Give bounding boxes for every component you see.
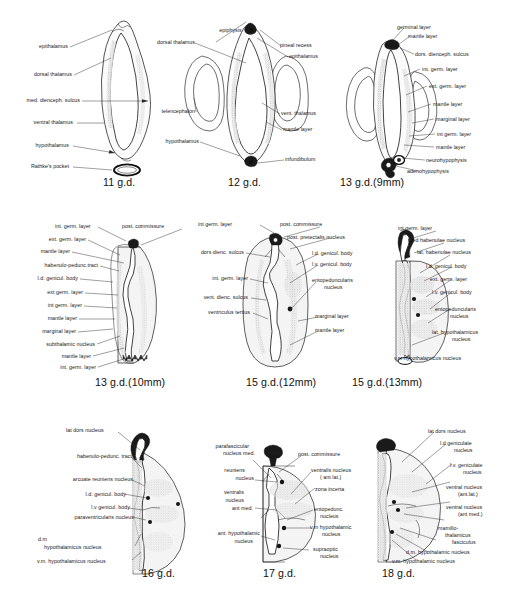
label-vm-hypothalamic-nucleus: v.m. hypothalamic nucleus	[392, 558, 455, 564]
label-arcuate-reuniens-nucleus: arcuate reuniens nucleus	[0, 476, 133, 482]
caption-17gd: 17 g.d.	[263, 568, 296, 579]
label-mantle-layer-2: mantle layer	[433, 101, 462, 107]
label-ventralis-1: ventralis	[165, 489, 244, 495]
label-parafascicular-2: nucleus med.	[165, 450, 255, 456]
label-int-germ-layer-mid: int. germ. layer	[140, 275, 248, 281]
label-paraventricularis-nucleus: paraventricularis nucleus	[0, 514, 134, 520]
label-int-germ-layer-2: int germ. layer	[0, 302, 82, 308]
figure-root: epithalamus dorsal thalamus med. diencep…	[0, 0, 530, 607]
label-infundibulum: infundibulum	[285, 156, 316, 162]
panel-11gd: epithalamus dorsal thalamus med. diencep…	[0, 0, 180, 195]
panel-15gd-12mm: int germ. layer post. commissure post. p…	[160, 205, 360, 395]
label-med-habenulae-nucleus: med habenulae nucleus	[408, 237, 465, 243]
label-int-germ-layer-1: int. germ. layer	[422, 66, 458, 72]
label-mantle-layer-1: mantle layer	[0, 248, 70, 254]
label-mamillo-2: thalamicus	[445, 532, 471, 538]
panel-15gd-13mm: int.germ. layer med habenulae nucleus la…	[340, 205, 530, 395]
label-dm-hypothalamicus-2: hypothalamicus nucleus	[44, 544, 101, 550]
caption-13gd-10mm: 13 g.d.(10mm)	[95, 377, 165, 388]
label-epithalamus: epithalamus	[0, 43, 68, 49]
label-marginal-layer: marginal layer	[0, 328, 76, 334]
label-dm-hypothalamic-nucleus: d.m. hypothalamic nucleus	[406, 549, 470, 555]
caption-12gd: 12 g.d.	[228, 177, 261, 188]
label-lat-habenulae-nucleus: lat. habenulae nucleus	[417, 249, 471, 255]
label-lv-genicul-body: l.v. genicul. body	[432, 289, 472, 295]
label-post-commissure: post. commissure	[280, 221, 322, 227]
panel-15gd-13mm-drawing	[340, 205, 530, 395]
panel-18gd: lat dors nucleus l.d geniculate nucleus …	[330, 410, 530, 607]
label-ant-hypothalamic-1: ant. hypothalamic	[165, 530, 260, 536]
label-vm-hypothalamicus: v.m. hypothalamicus nucleus	[37, 558, 106, 564]
label-epithalamus: epithalamus	[289, 53, 318, 59]
label-mantle-layer-1: mantle layer	[408, 33, 437, 39]
label-mantle-layer-3: mantle layer	[0, 353, 91, 359]
label-int-germ-layer-3: int. germ. layer	[0, 364, 96, 370]
label-dm-hypothalamicus-1: d.m	[38, 536, 47, 542]
label-marginal-layer: marginal layer	[436, 116, 470, 122]
label-mantle-layer-3: mantle layer	[436, 144, 465, 150]
label-mamillo-1: mamillo-	[438, 525, 458, 531]
label-ext-germ-layer: ext. germ. layer	[430, 276, 467, 282]
label-ventral-ant-med-2: (ant med.)	[458, 511, 483, 517]
label-lv-geniculate-1: l.v. geniculate	[450, 462, 483, 468]
label-int-germ-layer-top: int. germ. layer	[55, 223, 91, 229]
label-parafascicular-1: parafascicular	[165, 443, 249, 449]
label-lat-hypothalamicus-2: nucleus	[452, 336, 471, 342]
label-mantle-layer-2: mantle layer	[0, 315, 77, 321]
label-reuniens-2: nucleus	[165, 475, 254, 481]
label-dors-dienc-sulcus: dors dienc. sulcus	[140, 249, 244, 255]
label-rathkes-pocket: Rathke's pocket	[0, 163, 69, 169]
label-entopeduncularis-2: nucleus	[450, 313, 469, 319]
label-ventral-ant-lat-1: ventral nucleus	[446, 484, 482, 490]
caption-15gd-12mm: 15 g.d.(12mm)	[246, 377, 316, 388]
label-dorsal-thalamus: dorsal thalamus	[0, 71, 72, 77]
label-lv-geniculate-2: nucleus	[463, 469, 482, 475]
label-ld-geniculate-1: l.d geniculate	[440, 440, 472, 446]
label-pineal-recess: pineal recess	[280, 42, 312, 48]
label-lat-hypothalamicus-1: lat. hypothalamicus	[432, 329, 478, 335]
label-dorsal-thalamus: dorsal thalamus	[115, 39, 195, 45]
label-vent-thalamus: vent. thalamus	[281, 110, 316, 116]
label-mantle-layer: mantle layer	[283, 126, 312, 132]
label-neurohypophysis: neurohypophysis	[426, 157, 467, 163]
label-ld-genicul-body: l.d. genicul. body	[426, 263, 466, 269]
label-int-germ-layer-2: int germ. layer	[437, 131, 471, 137]
label-ld-geniculate-2: nucleus	[454, 447, 473, 453]
label-post-commissure: post. commissure	[122, 223, 164, 229]
label-habenulo-pedunc-tract: habenulo-pedunc.tract	[0, 262, 98, 268]
label-lat-dors-nucleus: lat dors nucleus	[428, 428, 466, 434]
label-germinal-layer: germinal layer	[397, 24, 431, 30]
label-reuniens-1: reuniens	[165, 467, 245, 473]
label-ext-germ-layer-2: ext germ. layer	[0, 289, 83, 295]
panel-18gd-drawing	[330, 410, 530, 607]
label-ventral-thalamus: ventral thalamus	[0, 119, 73, 125]
label-entopeduncularis-1: entopeduncularis	[435, 306, 476, 312]
caption-18gd: 18 g.d.	[382, 568, 415, 579]
label-ventral-ant-lat-2: (ant.lat.)	[458, 491, 478, 497]
caption-11gd: 11 g.d.	[103, 177, 135, 188]
label-med-dienceph-sulcus: med. dienceph. sulcus	[0, 97, 80, 103]
label-hypothalamus: hypothalamus	[115, 138, 199, 144]
label-habenulo-pedunc-tract: habenulo-pedunc. tract	[0, 453, 132, 459]
label-vent-dienc-sulcus: vent. dienc. sulcus	[140, 294, 248, 300]
label-post-pretectalis-nucleus: post. pretectalis nucleus	[287, 234, 345, 240]
label-ext-germ-layer: ext. germ. layer	[429, 83, 466, 89]
label-dors-dienceph-sulcus: dors. dienceph. sulcus	[415, 51, 469, 57]
label-ext-germ-layer-1: ext. germ. layer	[0, 236, 86, 242]
label-int-germ-layer: int.germ. layer	[398, 225, 432, 231]
label-epiphysis: epiphysis	[203, 27, 258, 33]
label-telencephalon: telencephalon	[115, 108, 195, 114]
label-ld-genicul-body: l.d. genicul. body	[0, 491, 126, 497]
label-hypothalamus: hypothalamus	[0, 142, 69, 148]
caption-15gd-13mm: 15 g.d.(13mm)	[352, 377, 422, 388]
label-lv-genicul-body: l.v genicul. body	[0, 504, 130, 510]
label-ventriculus-tertius: ventriculus tertius	[140, 309, 250, 315]
label-vm-hypothalamicus-nucleus: v.m hypothalamicus nucleus	[394, 355, 461, 361]
label-int-germ-layer-top: int germ. layer	[198, 221, 232, 227]
label-lat-dors-nucleus: lat dors nucleus	[66, 427, 104, 433]
caption-13gd-9mm: 13 g.d.(9mm)	[340, 177, 404, 188]
label-adenohypophysis: adenohypophysis	[407, 168, 449, 174]
panel-13gd-9mm: germinal layer mantle layer dors. dience…	[330, 0, 530, 195]
panel-12gd: epiphysis pineal recess epithalamus dors…	[160, 0, 350, 195]
label-subthalamic-nucleus: subthalamic nucleus	[0, 341, 95, 347]
